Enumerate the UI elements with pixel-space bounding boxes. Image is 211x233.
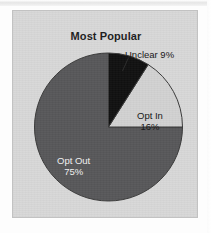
pie-label-opt-in: Opt In 16%	[137, 110, 163, 132]
pie-label-opt-out-name: Opt Out	[57, 155, 90, 166]
pie-label-unclear: Unclear 9%	[125, 49, 174, 60]
pie-label-opt-in-value: 16%	[137, 121, 163, 132]
chart-panel: Most Popular Unclear 9% Opt In 16% Opt O…	[12, 10, 198, 218]
pie-label-opt-in-name: Opt In	[137, 110, 163, 121]
pie-label-opt-out-value: 75%	[57, 166, 90, 177]
pie-label-opt-out: Opt Out 75%	[57, 155, 90, 177]
screenshot-root: Most Popular Unclear 9% Opt In 16% Opt O…	[0, 0, 211, 233]
pie-chart	[1, 1, 211, 233]
